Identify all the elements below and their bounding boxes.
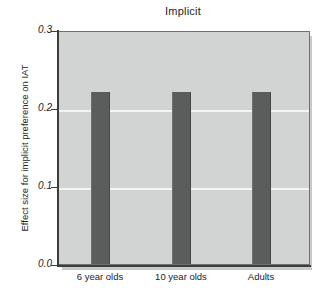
bar-10-year-olds: [172, 92, 191, 264]
y-tick-label-0.0: 0.0: [6, 258, 52, 269]
chart-title: Implicit: [55, 5, 311, 17]
bar-adults: [252, 92, 271, 264]
y-tick-label-0.2: 0.2: [6, 102, 52, 113]
chart-figure: Implicit Effect size for implicit prefer…: [0, 0, 329, 300]
plot-area: [58, 31, 310, 265]
bar-6-year-olds: [91, 92, 110, 264]
x-tick-label-6-year-olds: 6 year olds: [77, 271, 123, 282]
plot-inner: [59, 32, 309, 264]
x-tick-label-10-year-olds: 10 year olds: [155, 271, 207, 282]
y-tick-labels: 0.3 0.2 0.1 0.0: [6, 0, 54, 300]
y-axis-line: [57, 30, 59, 267]
y-tick-label-0.3: 0.3: [6, 24, 52, 35]
x-tick-label-adults: Adults: [248, 271, 274, 282]
y-tick-label-0.1: 0.1: [6, 180, 52, 191]
x-axis-line: [57, 265, 311, 267]
